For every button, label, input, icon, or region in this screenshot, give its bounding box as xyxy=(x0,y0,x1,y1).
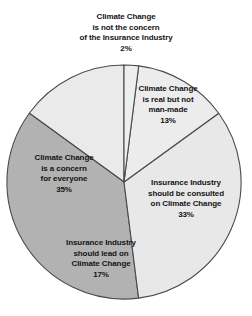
pie-label-line: is a concern xyxy=(41,164,87,173)
pie-label-should-be-consulted: Insurance Industry should be consulted o… xyxy=(128,178,244,220)
pie-label-percent: 33% xyxy=(128,210,244,221)
pie-label-should-lead-on: Insurance Industry should lead on Climat… xyxy=(46,238,156,280)
pie-label-line: Insurance Industry xyxy=(66,238,136,247)
pie-label-line: on Climate Change xyxy=(151,199,222,208)
pie-label-line: Climate Change xyxy=(138,84,197,93)
pie-label-line: Climate Change xyxy=(71,259,130,268)
pie-label-line: Climate Change xyxy=(34,153,93,162)
pie-label-percent: 35% xyxy=(12,185,116,196)
pie-label-line: should lead on xyxy=(73,249,128,258)
pie-label-line: should be consulted xyxy=(148,189,224,198)
pie-chart: Climate Change is not the concern of the… xyxy=(0,0,252,316)
pie-label-line: is real but not xyxy=(143,95,194,104)
pie-label-line: Climate Change xyxy=(96,12,155,21)
pie-label-real-but-not-man-made: Climate Change is real but not man-made … xyxy=(118,84,218,126)
pie-label-line: for everyone xyxy=(41,174,88,183)
pie-label-not-the-concern: Climate Change is not the concern of the… xyxy=(46,12,206,54)
pie-label-percent: 2% xyxy=(46,44,206,55)
pie-label-percent: 17% xyxy=(46,270,156,281)
pie-label-line: man-made xyxy=(148,105,187,114)
pie-label-line: of the Insurance Industry xyxy=(79,33,172,42)
pie-label-percent: 13% xyxy=(118,116,218,127)
pie-label-line: is not the concern xyxy=(92,23,159,32)
pie-label-line: Insurance Industry xyxy=(151,178,221,187)
pie-label-concern-for-everyone: Climate Change is a concern for everyone… xyxy=(12,153,116,195)
